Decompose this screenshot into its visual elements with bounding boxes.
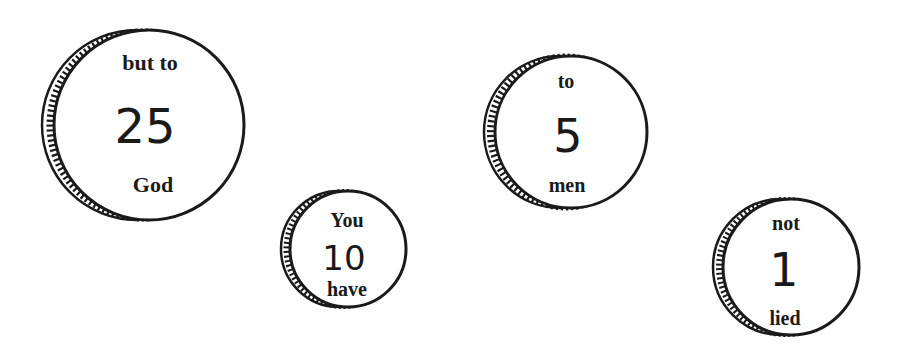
coin-top-word: but to	[122, 50, 178, 75]
coin-value: 25	[114, 98, 175, 154]
coin-value: 10	[322, 238, 365, 278]
coin-1: not 1 lied	[713, 199, 859, 335]
coin-5: to 5 men	[484, 56, 647, 208]
coin-value: 1	[769, 243, 798, 297]
coin-bottom-word: lied	[769, 307, 800, 329]
coin-value: 5	[553, 109, 582, 163]
coin-bottom-word: men	[549, 174, 586, 196]
coin-top-word: You	[330, 209, 363, 231]
coin-bottom-word: God	[133, 172, 173, 197]
coin-10: You 10 have	[281, 191, 406, 307]
coin-25: but to 25 God	[42, 30, 244, 220]
coin-bottom-word: have	[327, 278, 367, 300]
coin-top-word: to	[558, 70, 575, 92]
coin-top-word: not	[772, 212, 800, 234]
coins-illustration: but to 25 God You 10 have to 5 men not 1…	[0, 0, 905, 355]
